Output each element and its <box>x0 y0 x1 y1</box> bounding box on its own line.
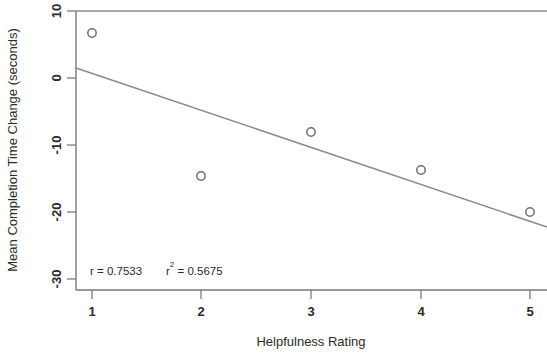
x-axis-title: Helpfulness Rating <box>256 334 365 349</box>
y-tick-label-10: 10 <box>49 4 64 18</box>
annotation-r2-equals: = <box>174 265 187 277</box>
data-point-4 <box>417 166 425 174</box>
data-point-1 <box>88 29 96 37</box>
data-point-5 <box>526 208 534 216</box>
x-tick-label-3: 3 <box>307 304 314 319</box>
scatter-plot-svg: 10 0 -10 -20 -30 Mean Completion Time Ch… <box>0 0 547 355</box>
y-axis-tick-labels: 10 0 -10 -20 -30 <box>49 4 64 289</box>
annotation-r-label: r = <box>90 265 107 277</box>
annotation-r2: r2 = 0.5675 <box>166 260 223 278</box>
chart-container: 10 0 -10 -20 -30 Mean Completion Time Ch… <box>0 0 547 355</box>
x-tick-label-4: 4 <box>417 304 425 319</box>
x-tick-label-5: 5 <box>526 304 533 319</box>
trendline <box>76 68 547 227</box>
x-tick-label-2: 2 <box>197 304 204 319</box>
y-tick-label-0: 0 <box>49 74 64 81</box>
data-point-2 <box>197 172 205 180</box>
y-tick-label-neg30: -30 <box>49 270 64 289</box>
x-axis-ticks <box>92 290 530 299</box>
correlation-annotation: r = 0.7533 r2 = 0.5675 <box>90 260 223 278</box>
y-axis-ticks <box>67 11 76 279</box>
annotation-r: r = 0.7533 <box>90 265 142 277</box>
annotation-r-value: 0.7533 <box>107 265 142 277</box>
data-points <box>88 29 534 216</box>
y-tick-label-neg10: -10 <box>49 136 64 155</box>
y-tick-label-neg20: -20 <box>49 203 64 222</box>
annotation-r2-value: 0.5675 <box>187 265 222 277</box>
data-point-3 <box>307 128 315 136</box>
y-axis-title: Mean Completion Time Change (seconds) <box>5 28 20 272</box>
x-tick-label-1: 1 <box>88 304 95 319</box>
x-axis-tick-labels: 1 2 3 4 5 <box>88 304 533 319</box>
